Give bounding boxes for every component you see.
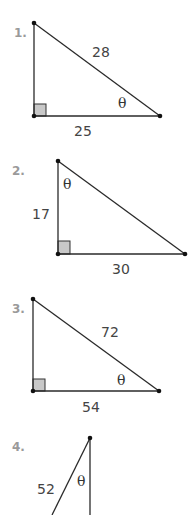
angle-label: θ (77, 473, 85, 489)
angle-label: θ (118, 95, 126, 111)
angle-label: θ (63, 176, 71, 192)
vertex (183, 252, 188, 257)
right-angle-marker (33, 379, 45, 391)
problem-number: 2. (12, 164, 25, 178)
angle-label: θ (117, 372, 125, 388)
problem-1: 1. 28 θ 25 (14, 21, 162, 139)
hypotenuse-label: 52 (37, 481, 55, 497)
vertex (158, 114, 163, 119)
hypotenuse (33, 299, 159, 391)
vertex (31, 297, 36, 302)
right-angle-marker (58, 241, 70, 254)
worksheet-figures: 1. 28 θ 25 2. θ 17 30 3. 72 θ 5 (0, 0, 196, 515)
vertex (56, 252, 61, 257)
right-angle-marker (34, 104, 46, 116)
adjacent-label: 25 (74, 123, 92, 139)
vertex (32, 21, 37, 26)
problem-number: 3. (12, 302, 25, 316)
problem-2: 2. θ 17 30 (12, 159, 187, 277)
problem-number: 1. (14, 26, 27, 40)
hypotenuse-label: 28 (92, 44, 110, 60)
problem-4: 4. 52 θ (12, 436, 92, 515)
vertex (157, 389, 162, 394)
adjacent-label: 54 (82, 399, 100, 415)
problem-number: 4. (12, 440, 25, 454)
horizontal-side-label: 30 (112, 261, 130, 277)
hypotenuse-label: 72 (101, 324, 119, 340)
vertex (31, 389, 36, 394)
vertex (56, 159, 61, 164)
hypotenuse (58, 161, 185, 254)
problem-3: 3. 72 θ 54 (12, 297, 161, 415)
vertical-side-label: 17 (32, 206, 50, 222)
vertex (32, 114, 37, 119)
vertex (88, 436, 93, 441)
hypotenuse (34, 23, 160, 116)
